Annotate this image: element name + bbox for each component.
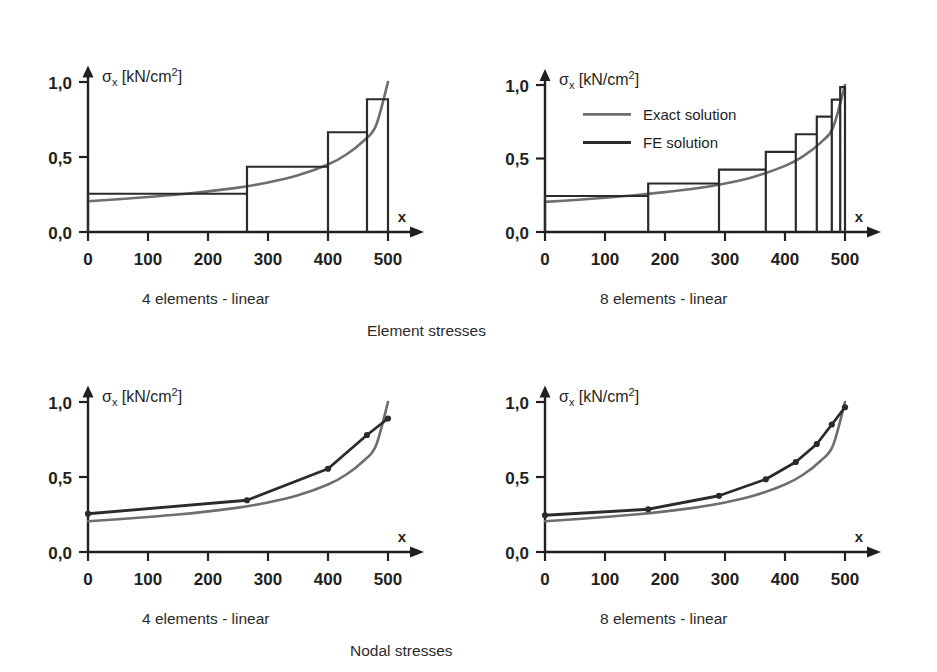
fe-solution-nodal-polyline <box>545 407 845 515</box>
x-axis-title: x <box>398 208 407 225</box>
x-axis-arrowhead <box>867 227 881 238</box>
y-tick-label-0,0: 0,0 <box>48 224 72 243</box>
x-tick-label-200: 200 <box>194 570 222 589</box>
y-axis-title: σx [kN/cm2] <box>559 69 639 91</box>
y-tick-label-1,0: 1,0 <box>505 77 529 96</box>
exact-solution-curve <box>545 402 845 521</box>
y-axis-title: σx [kN/cm2] <box>102 386 182 408</box>
y-tick-label-1,0: 1,0 <box>48 394 72 413</box>
legend-label-fe-solution: FE solution <box>643 134 718 151</box>
y-axis-title-unit: [kN/cm <box>574 71 628 88</box>
x-tick-label-100: 100 <box>134 250 162 269</box>
y-axis-title-sigma: σ <box>102 388 112 405</box>
y-axis-title-unit: [kN/cm <box>574 388 628 405</box>
nodal-stress-marker <box>385 415 391 421</box>
nodal-stress-marker <box>842 404 848 410</box>
nodal-stress-marker <box>542 512 548 518</box>
nodal-stress-marker <box>244 497 250 503</box>
nodal-stress-marker <box>645 506 651 512</box>
x-tick-label-500: 500 <box>374 250 402 269</box>
y-tick-label-0,5: 0,5 <box>505 469 529 488</box>
nodal-stress-marker <box>829 421 835 427</box>
x-tick-label-100: 100 <box>591 250 619 269</box>
x-tick-label-200: 200 <box>651 570 679 589</box>
y-axis-title-unit: [kN/cm <box>117 68 171 85</box>
nodal-stress-marker <box>364 432 370 438</box>
nodal-stress-marker <box>793 459 799 465</box>
exact-solution-curve <box>88 402 388 521</box>
nodal-stress-marker <box>716 493 722 499</box>
x-tick-label-100: 100 <box>591 570 619 589</box>
x-tick-label-0: 0 <box>540 570 549 589</box>
exact-solution-curve <box>88 82 388 201</box>
x-tick-label-200: 200 <box>194 250 222 269</box>
plot-caption-element-stresses-4-elements: 4 elements - linear <box>142 290 270 308</box>
x-tick-label-500: 500 <box>831 570 859 589</box>
x-tick-label-0: 0 <box>83 250 92 269</box>
x-tick-label-300: 300 <box>711 250 739 269</box>
x-tick-label-100: 100 <box>134 570 162 589</box>
y-tick-label-0,5: 0,5 <box>48 149 72 168</box>
y-tick-label-0,5: 0,5 <box>505 150 529 169</box>
y-axis-title-close: ] <box>635 388 639 405</box>
plot-caption-nodal-stresses-8-elements: 8 elements - linear <box>600 610 728 628</box>
x-tick-label-300: 300 <box>254 570 282 589</box>
y-axis-title: σx [kN/cm2] <box>102 66 182 88</box>
plot-nodal-stresses-4-elements: 0,00,51,00100200300400500σx [kN/cm2]x <box>48 386 424 590</box>
y-axis-arrowhead <box>83 66 94 78</box>
y-tick-label-0,0: 0,0 <box>48 544 72 563</box>
nodal-stress-marker <box>763 476 769 482</box>
y-axis-arrowhead <box>83 386 94 398</box>
x-axis-arrowhead <box>867 547 881 558</box>
y-axis-title: σx [kN/cm2] <box>559 386 639 408</box>
y-axis-title-sigma: σ <box>559 71 569 88</box>
y-axis-title-close: ] <box>178 68 182 85</box>
y-axis-title-sigma: σ <box>102 68 112 85</box>
x-axis-arrowhead <box>410 227 424 238</box>
y-tick-label-0,0: 0,0 <box>505 224 529 243</box>
x-tick-label-0: 0 <box>540 250 549 269</box>
nodal-stress-marker <box>85 511 91 517</box>
x-axis-title: x <box>855 528 864 545</box>
x-tick-label-400: 400 <box>771 570 799 589</box>
x-tick-label-0: 0 <box>83 570 92 589</box>
x-tick-label-300: 300 <box>254 250 282 269</box>
y-axis-title-sigma: σ <box>559 388 569 405</box>
y-axis-title-close: ] <box>178 388 182 405</box>
y-tick-label-1,0: 1,0 <box>48 74 72 93</box>
legend: Exact solutionFE solution <box>583 106 736 151</box>
x-tick-label-500: 500 <box>374 570 402 589</box>
fe-solution-nodal-polyline <box>88 419 388 514</box>
plot-nodal-stresses-8-elements: 0,00,51,00100200300400500σx [kN/cm2]x <box>505 386 881 590</box>
legend-label-exact-solution: Exact solution <box>643 106 736 123</box>
x-axis-arrowhead <box>410 547 424 558</box>
x-tick-label-300: 300 <box>711 570 739 589</box>
x-tick-label-400: 400 <box>771 250 799 269</box>
x-tick-label-200: 200 <box>651 250 679 269</box>
y-axis-arrowhead <box>540 386 551 398</box>
fe-solution-step-bars <box>88 99 388 232</box>
y-axis-title-close: ] <box>635 71 639 88</box>
x-tick-label-500: 500 <box>831 250 859 269</box>
group-caption-nodal-stresses: Nodal stresses <box>350 642 453 660</box>
plot-element-stresses-4-elements: 0,00,51,00100200300400500σx [kN/cm2]x <box>48 66 424 270</box>
plot-caption-element-stresses-8-elements: 8 elements - linear <box>600 290 728 308</box>
plot-element-stresses-8-elements: 0,00,51,00100200300400500σx [kN/cm2]xExa… <box>505 69 881 269</box>
x-axis-title: x <box>855 208 864 225</box>
y-axis-title-unit: [kN/cm <box>117 388 171 405</box>
y-tick-label-0,0: 0,0 <box>505 544 529 563</box>
plot-caption-nodal-stresses-4-elements: 4 elements - linear <box>142 610 270 628</box>
y-tick-label-0,5: 0,5 <box>48 469 72 488</box>
x-tick-label-400: 400 <box>314 250 342 269</box>
x-tick-label-400: 400 <box>314 570 342 589</box>
group-caption-element-stresses: Element stresses <box>367 322 486 340</box>
nodal-stress-marker <box>814 441 820 447</box>
y-tick-label-1,0: 1,0 <box>505 394 529 413</box>
x-axis-title: x <box>398 528 407 545</box>
y-axis-arrowhead <box>540 69 551 81</box>
nodal-stress-marker <box>325 466 331 472</box>
